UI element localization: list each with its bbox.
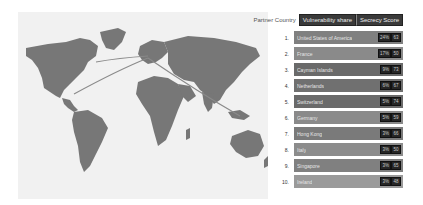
- country-name: Cayman Islands: [297, 67, 333, 73]
- list-item[interactable]: 9. Singapore 3%65: [277, 159, 403, 172]
- country-bar[interactable]: Switzerland 5%74: [294, 95, 403, 108]
- country-name: Switzerland: [297, 99, 323, 105]
- secrecy-score-value: 66: [391, 129, 401, 138]
- vulnerability-share-value: 9%: [380, 65, 391, 74]
- secrecy-score-value: 50: [391, 49, 401, 58]
- list-item[interactable]: 1. United States of America 24%63: [277, 31, 403, 44]
- rank: 7.: [277, 131, 289, 137]
- list-item[interactable]: 6. Germany 5%59: [277, 111, 403, 124]
- continents: [26, 28, 268, 172]
- country-name: United States of America: [297, 35, 352, 41]
- secrecy-score-value: 63: [391, 33, 401, 42]
- rank: 8.: [277, 147, 289, 153]
- world-map-graphic: [18, 12, 268, 199]
- secrecy-score-value: 65: [391, 161, 401, 170]
- country-bar[interactable]: Ireland 3%48: [294, 175, 403, 188]
- list-item[interactable]: 4. Netherlands 6%67: [277, 79, 403, 92]
- secrecy-score-value: 74: [391, 97, 401, 106]
- vulnerability-share-value: 3%: [380, 145, 391, 154]
- country-name: Germany: [297, 115, 318, 121]
- secrecy-score-value: 50: [391, 145, 401, 154]
- country-bar[interactable]: Hong Kong 3%66: [294, 127, 403, 140]
- rank: 1.: [277, 35, 289, 41]
- vulnerability-share-value: 3%: [380, 177, 391, 186]
- rank: 2.: [277, 51, 289, 57]
- country-bar[interactable]: Netherlands 6%67: [294, 79, 403, 92]
- country-name: Italy: [297, 147, 306, 153]
- table-header: Partner Country Vulnerability share Secr…: [253, 14, 403, 26]
- country-name: Netherlands: [297, 83, 324, 89]
- rank: 5.: [277, 99, 289, 105]
- country-bar[interactable]: Italy 3%50: [294, 143, 403, 156]
- country-name: France: [297, 51, 313, 57]
- country-bar[interactable]: Cayman Islands 9%73: [294, 63, 403, 76]
- country-name: Ireland: [297, 179, 312, 185]
- rank: 9.: [277, 163, 289, 169]
- rank: 10.: [277, 179, 289, 185]
- partner-country-label: Partner Country: [253, 17, 295, 23]
- world-map[interactable]: [18, 12, 268, 199]
- list-item[interactable]: 8. Italy 3%50: [277, 143, 403, 156]
- list-item[interactable]: 7. Hong Kong 3%66: [277, 127, 403, 140]
- secrecy-score-value: 48: [391, 177, 401, 186]
- rank: 3.: [277, 67, 289, 73]
- vulnerability-share-value: 6%: [380, 81, 391, 90]
- country-bar[interactable]: France 17%50: [294, 47, 403, 60]
- country-bar[interactable]: Singapore 3%65: [294, 159, 403, 172]
- vulnerability-share-value: 3%: [380, 129, 391, 138]
- vulnerability-share-toggle[interactable]: Vulnerability share: [299, 14, 356, 26]
- country-bar[interactable]: Germany 5%59: [294, 111, 403, 124]
- secrecy-score-toggle[interactable]: Secrecy Score: [356, 14, 403, 26]
- secrecy-score-value: 67: [391, 81, 401, 90]
- rank: 6.: [277, 115, 289, 121]
- country-name: Hong Kong: [297, 131, 322, 137]
- vulnerability-share-value: 5%: [380, 113, 391, 122]
- vulnerability-share-value: 24%: [378, 33, 391, 42]
- list-item[interactable]: 2. France 17%50: [277, 47, 403, 60]
- country-ranking-list: 1. United States of America 24%63 2. Fra…: [277, 31, 403, 191]
- vulnerability-share-value: 5%: [380, 97, 391, 106]
- rank: 4.: [277, 83, 289, 89]
- secrecy-score-value: 73: [391, 65, 401, 74]
- vulnerability-share-value: 3%: [380, 161, 391, 170]
- country-bar[interactable]: United States of America 24%63: [294, 31, 403, 44]
- secrecy-score-value: 59: [391, 113, 401, 122]
- list-item[interactable]: 5. Switzerland 5%74: [277, 95, 403, 108]
- list-item[interactable]: 3. Cayman Islands 9%73: [277, 63, 403, 76]
- country-name: Singapore: [297, 163, 320, 169]
- list-item[interactable]: 10. Ireland 3%48: [277, 175, 403, 188]
- vulnerability-share-value: 17%: [378, 49, 391, 58]
